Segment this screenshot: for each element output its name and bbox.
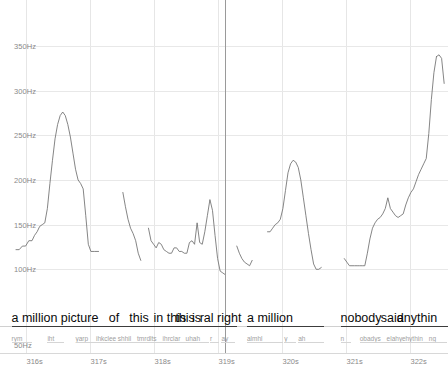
pitch-segment-6 [436, 55, 444, 84]
phone-tier[interactable]: rymihtyarpihkcleeshhiltmrdltsihrclaruhah… [0, 330, 448, 343]
x-tick-322s: 322s [410, 357, 426, 366]
y-tick-300Hz: 300Hz [14, 86, 36, 95]
gridline-300Hz [26, 91, 448, 92]
phone-interval-underline[interactable] [429, 342, 447, 343]
word-label[interactable]: a million [247, 312, 293, 325]
word-interval-underline[interactable] [247, 326, 324, 327]
word-interval-underline[interactable] [200, 326, 237, 327]
phone-label[interactable]: elahy [387, 335, 403, 342]
word-interval-underline[interactable] [109, 326, 130, 327]
phone-interval-underline[interactable] [137, 342, 164, 343]
phone-label[interactable]: tmrdlts [137, 335, 157, 342]
y-tick-100Hz: 100Hz [14, 265, 36, 274]
phone-label[interactable]: ng [429, 335, 436, 342]
phone-interval-underline[interactable] [298, 342, 324, 343]
phone-interval-underline[interactable] [247, 342, 283, 343]
pitch-segment-5 [344, 57, 436, 266]
word-label[interactable]: a million picture [12, 312, 99, 325]
phone-label[interactable]: obadys [360, 335, 381, 342]
y-tick-250Hz: 250Hz [14, 131, 36, 140]
word-interval-underline[interactable] [129, 326, 153, 327]
pitch-segment-3 [237, 246, 252, 266]
phone-interval-underline[interactable] [163, 342, 187, 343]
word-tier[interactable]: a million pictureofthisin thisthisisral … [0, 305, 448, 327]
phone-interval-underline[interactable] [186, 342, 209, 343]
gridline-320s [282, 0, 283, 353]
pitch-contour-viewer[interactable]: 350Hz300Hz250Hz200Hz150Hz100Hz50Hz a mil… [0, 0, 448, 376]
phone-label[interactable]: n [341, 335, 345, 342]
phone-label[interactable]: y [284, 335, 287, 342]
phone-label[interactable]: ehythin [402, 335, 423, 342]
phone-label[interactable]: rym [12, 335, 23, 342]
phone-interval-underline[interactable] [341, 342, 351, 343]
x-tick-320s: 320s [282, 357, 298, 366]
x-tick-318s: 318s [154, 357, 170, 366]
phone-label[interactable]: ihkclee [96, 335, 116, 342]
phone-label[interactable]: shhil [118, 335, 131, 342]
word-label[interactable]: anythin [397, 312, 437, 325]
phone-label[interactable]: ah [298, 335, 305, 342]
phone-label[interactable]: iht [47, 335, 54, 342]
gridline-350Hz [26, 46, 448, 47]
phone-label[interactable]: r [210, 335, 212, 342]
y-tick-150Hz: 150Hz [14, 220, 36, 229]
phone-interval-underline[interactable] [210, 342, 219, 343]
phone-label[interactable]: yarp [76, 335, 89, 342]
gridline-317s [90, 0, 91, 353]
pitch-segment-2 [148, 200, 225, 275]
phone-label[interactable]: ihrclar [163, 335, 181, 342]
gridline-322s [410, 0, 411, 353]
gridline-250Hz [26, 135, 448, 136]
gridline-100Hz [26, 269, 448, 270]
word-label[interactable]: ral right [200, 312, 242, 325]
phone-label[interactable]: almhl [247, 335, 263, 342]
phone-label[interactable]: ay [221, 335, 228, 342]
playhead-cursor[interactable] [225, 0, 226, 353]
gridline-318s [154, 0, 155, 353]
pitch-segment-4 [268, 160, 322, 269]
x-tick-319s: 319s [218, 357, 234, 366]
pitch-segment-1 [123, 192, 141, 260]
word-label[interactable]: of [109, 312, 119, 325]
phone-interval-underline[interactable] [402, 342, 429, 343]
x-tick-317s: 317s [90, 357, 106, 366]
word-interval-underline[interactable] [397, 326, 448, 327]
phone-interval-underline[interactable] [221, 342, 235, 343]
gridline-200Hz [26, 180, 448, 181]
word-label[interactable]: this [129, 312, 148, 325]
phone-interval-underline[interactable] [284, 342, 296, 343]
y-tick-350Hz: 350Hz [14, 41, 36, 50]
phone-label[interactable]: uhah [186, 335, 200, 342]
gridline-319s [218, 0, 219, 353]
x-tick-321s: 321s [346, 357, 362, 366]
phone-interval-underline[interactable] [47, 342, 64, 343]
phone-interval-underline[interactable] [12, 342, 33, 343]
word-label[interactable]: nobody [341, 312, 382, 325]
x-axis-line [0, 353, 448, 354]
gridline-321s [346, 0, 347, 353]
x-tick-316s: 316s [26, 357, 42, 366]
gridline-150Hz [26, 225, 448, 226]
y-tick-200Hz: 200Hz [14, 175, 36, 184]
